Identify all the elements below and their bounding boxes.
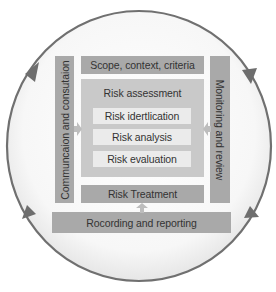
- risk-analysis-label: Risk analysis: [112, 131, 172, 143]
- communication-consultation-bar: Communcaion and consutaion: [55, 56, 74, 203]
- arrow-right-icon: [74, 122, 82, 136]
- risk-identification-label: Risk idertlication: [105, 110, 180, 122]
- risk-evaluation-label: Risk evaluation: [107, 153, 177, 165]
- risk-evaluation-box: Risk evaluation: [93, 151, 191, 167]
- risk-treatment-box: Risk Treatment: [81, 185, 204, 203]
- recording-reporting-label: Rocording and reporting: [86, 217, 196, 229]
- arrow-up-icon: [136, 203, 148, 213]
- risk-analysis-box: Risk analysis: [93, 129, 191, 145]
- arrow-left-icon: [203, 122, 211, 136]
- monitoring-review-bar: Monitoring and review: [210, 56, 230, 203]
- risk-assessment-box: Risk assessment Risk idertlication Risk …: [81, 79, 204, 177]
- communication-consultation-label: Communcaion and consutaion: [59, 60, 71, 199]
- scope-label: Scope, context, criteria: [90, 59, 194, 71]
- monitoring-review-label: Monitoring and review: [214, 79, 226, 180]
- risk-identification-box: Risk idertlication: [93, 108, 191, 124]
- risk-treatment-label: Risk Treatment: [108, 188, 177, 200]
- recording-reporting-box: Rocording and reporting: [52, 212, 231, 233]
- risk-management-diagram: Communcaion and consutaion Monitoring an…: [0, 0, 276, 292]
- scope-context-criteria-box: Scope, context, criteria: [81, 56, 204, 74]
- risk-assessment-title: Risk assessment: [81, 87, 204, 99]
